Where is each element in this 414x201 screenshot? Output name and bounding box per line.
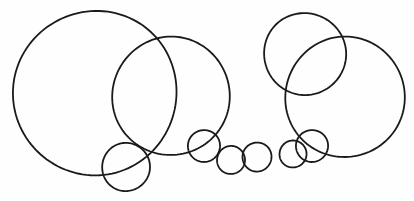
circle-large-right (285, 37, 405, 157)
circle-chain-3 (243, 143, 272, 172)
circle-group (13, 11, 405, 191)
circle-chain-2 (217, 146, 245, 174)
circle-large-left (13, 11, 177, 175)
circle-upper-right (264, 13, 346, 95)
circle-large-mid-left (112, 37, 230, 155)
circle-chain-5 (296, 130, 328, 162)
figure-canvas (0, 0, 414, 201)
circles-figure (0, 0, 414, 201)
circle-chain-4 (280, 140, 307, 167)
circle-chain-1 (188, 130, 220, 162)
circle-small-lower-left (102, 143, 150, 191)
